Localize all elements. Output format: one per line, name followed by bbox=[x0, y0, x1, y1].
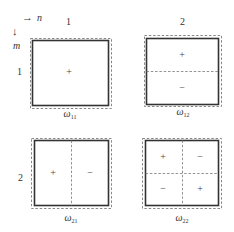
diagram-canvas bbox=[0, 0, 234, 232]
plus-sign-w11-0: + bbox=[66, 67, 72, 77]
plus-sign-w12-0: + bbox=[179, 50, 185, 60]
caption-w21: ω21 bbox=[64, 213, 77, 226]
n-axis-label: n bbox=[37, 13, 42, 23]
minus-sign-w22-2: − bbox=[160, 184, 166, 194]
row-header-1: 1 bbox=[17, 67, 22, 77]
plus-sign-w21-0: + bbox=[50, 168, 56, 178]
column-header-2: 2 bbox=[180, 17, 185, 27]
mode-boundary-dashed-w12 bbox=[145, 36, 222, 107]
n-axis-arrow-icon: → bbox=[22, 12, 33, 22]
caption-w22: ω22 bbox=[175, 213, 188, 226]
plus-sign-w22-3: + bbox=[197, 184, 203, 194]
mode-boundary-solid-w22 bbox=[146, 141, 219, 206]
m-axis-label: m bbox=[13, 41, 20, 51]
caption-w11: ω11 bbox=[64, 109, 77, 122]
plus-sign-w22-0: + bbox=[160, 152, 166, 162]
row-header-2: 2 bbox=[18, 173, 23, 183]
minus-sign-w22-1: − bbox=[197, 152, 203, 162]
mode-shape-diagram: → n ↓ m 1 2 1 2 ω11 ω12 ω21 ω22 ++−+−+−−… bbox=[0, 0, 234, 232]
minus-sign-w21-1: − bbox=[87, 168, 93, 178]
minus-sign-w12-1: − bbox=[179, 83, 185, 93]
column-header-1: 1 bbox=[66, 17, 71, 27]
caption-w12: ω12 bbox=[176, 107, 189, 120]
m-axis-arrow-icon: ↓ bbox=[12, 26, 18, 36]
